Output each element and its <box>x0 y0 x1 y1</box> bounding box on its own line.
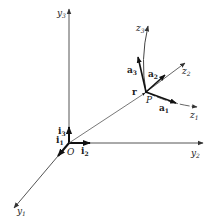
y1-label: y1 <box>17 207 26 217</box>
z3-label: z3 <box>136 24 145 34</box>
point-p-dot <box>145 91 147 93</box>
a3-label: a3 <box>127 66 137 76</box>
a2-label: a2 <box>148 70 158 80</box>
diagram-graphics <box>0 0 209 221</box>
r-vector <box>69 93 145 143</box>
z2-label: z2 <box>182 67 191 77</box>
point-p-label: P <box>146 96 152 105</box>
coordinate-frames-diagram: y3 y2 y1 i3 i1 i2 O z3 z2 z1 a3 a2 a1 r … <box>0 0 209 221</box>
a1-label: a1 <box>159 104 169 114</box>
i1-label: i1 <box>56 136 64 146</box>
a3-vector <box>138 57 146 92</box>
i2-label: i2 <box>81 147 89 157</box>
r-label: r <box>132 88 137 97</box>
y3-label: y3 <box>57 9 66 19</box>
z1-label: z1 <box>190 111 199 121</box>
y2-label: y2 <box>191 149 200 159</box>
origin-label: O <box>67 148 74 157</box>
